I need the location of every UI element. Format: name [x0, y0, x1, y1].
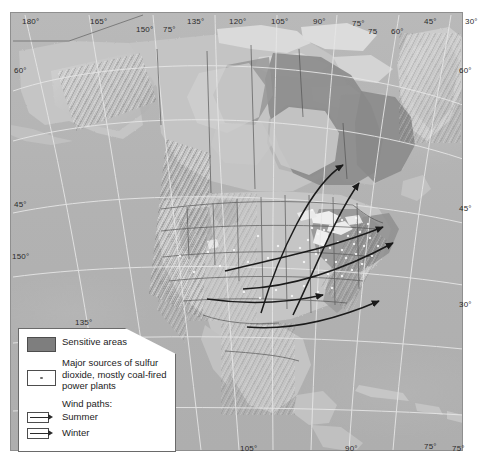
- graticule-label-top-12: 30°: [465, 17, 478, 26]
- graticule-label-top-7: 90°: [313, 17, 326, 26]
- graticule-label-top-1: 165°: [90, 17, 107, 26]
- legend-label-winter: Winter: [62, 427, 89, 439]
- graticule-label-top-2: 150°: [136, 25, 153, 34]
- legend-item-summer-wind[interactable]: Summer: [27, 411, 169, 423]
- winter-wind-arrow-icon: [27, 428, 55, 439]
- graticule-label-top-5: 120°: [229, 17, 246, 26]
- legend-item-so2-sources[interactable]: Major sources of sulfur dioxide, mostly …: [27, 357, 169, 392]
- graticule-label-right-0: 60°: [459, 66, 472, 75]
- graticule-label-top-11: 45°: [424, 17, 437, 26]
- graticule-label-bottom-1: 105°: [240, 444, 257, 453]
- graticule-label-top-3: 75°: [163, 25, 176, 34]
- graticule-label-top-10: 60°: [391, 27, 404, 36]
- legend-heading-wind-paths: Wind paths:: [62, 398, 169, 409]
- graticule-label-left-1: 45°: [14, 200, 27, 209]
- graticule-label-bottom-0: 135°: [75, 318, 92, 327]
- summer-wind-arrow-icon: [27, 412, 55, 423]
- map-figure: 180°165°150°75°135°120°105°90°75°7560°45…: [0, 0, 486, 468]
- graticule-label-left-0: 60°: [14, 66, 27, 75]
- graticule-label-top-4: 135°: [187, 17, 204, 26]
- graticule-label-top-0: 180°: [22, 17, 39, 26]
- map-legend[interactable]: Sensitive areas Major sources of sulfur …: [18, 328, 176, 452]
- graticule-label-top-9: 75: [368, 27, 377, 36]
- graticule-label-right-2: 30°: [459, 300, 472, 309]
- legend-label-summer: Summer: [62, 411, 98, 423]
- graticule-label-bottom-2: 90°: [345, 444, 358, 453]
- graticule-label-bottom-3: 75°: [424, 442, 437, 451]
- graticule-label-top-6: 105°: [271, 17, 288, 26]
- graticule-label-top-8: 75°: [352, 19, 365, 28]
- legend-item-winter-wind[interactable]: Winter: [27, 427, 169, 439]
- graticule-label-right-1: 45°: [459, 204, 472, 213]
- graticule-label-left-2: 150°: [12, 252, 29, 261]
- legend-label-sensitive-areas: Sensitive areas: [62, 336, 127, 348]
- sensitive-areas-swatch-icon: [27, 336, 55, 352]
- so2-source-swatch-icon: [27, 357, 55, 386]
- graticule-label-right-3: 75°: [452, 444, 465, 453]
- legend-label-so2-sources: Major sources of sulfur dioxide, mostly …: [62, 357, 169, 392]
